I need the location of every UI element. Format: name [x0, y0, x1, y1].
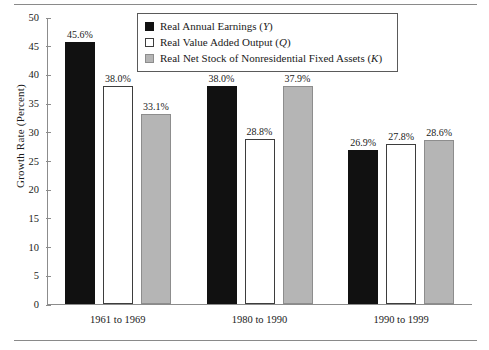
y-axis-tick: [46, 161, 51, 162]
legend-item: Real Net Stock of Nonresidential Fixed A…: [145, 50, 391, 66]
y-axis-tick-label: 50: [11, 13, 39, 24]
bar: [103, 86, 133, 304]
y-axis-tick-label: 35: [11, 99, 39, 110]
legend-label: Real Annual Earnings (Y): [160, 20, 273, 32]
bar: [141, 114, 171, 304]
y-axis-tick: [46, 190, 51, 191]
legend-swatch: [145, 54, 154, 63]
bar: [386, 144, 416, 304]
y-axis-tick: [46, 305, 51, 306]
y-axis-tick: [46, 247, 51, 248]
x-axis-category-label: 1980 to 1990: [200, 314, 320, 325]
figure-container: Growth Rate (Percent) 051015202530354045…: [0, 0, 489, 350]
bar: [424, 140, 454, 304]
legend-label: Real Value Added Output (Q): [160, 36, 291, 48]
y-axis-tick: [46, 132, 51, 133]
legend-item: Real Value Added Output (Q): [145, 34, 391, 50]
bar-value-label: 38.0%: [94, 74, 142, 84]
bar: [245, 139, 275, 304]
y-axis-tick-label: 10: [11, 243, 39, 254]
y-axis-tick-label: 20: [11, 185, 39, 196]
y-axis-tick-label: 15: [11, 214, 39, 225]
y-axis-tick: [46, 46, 51, 47]
y-axis-tick-label: 0: [11, 300, 39, 311]
y-axis-tick-label: 30: [11, 128, 39, 139]
legend-swatch: [145, 22, 154, 31]
bar-value-label: 33.1%: [132, 102, 180, 112]
legend-item: Real Annual Earnings (Y): [145, 18, 391, 34]
bottom-rule: [14, 340, 477, 341]
legend-swatch: [145, 38, 154, 47]
y-axis-tick: [46, 218, 51, 219]
y-axis-tick-label: 25: [11, 157, 39, 168]
bar-value-label: 37.9%: [274, 74, 322, 84]
y-axis-tick-label: 45: [11, 42, 39, 53]
legend: Real Annual Earnings (Y)Real Value Added…: [137, 13, 398, 72]
y-axis-tick: [46, 18, 51, 19]
bar: [207, 86, 237, 304]
bar-value-label: 28.8%: [236, 127, 284, 137]
bar: [65, 42, 95, 304]
y-axis-tick: [46, 104, 51, 105]
top-rule: [14, 4, 477, 5]
x-axis-category-label: 1990 to 1999: [341, 314, 461, 325]
x-axis-line: [47, 304, 472, 305]
y-axis-tick-label: 5: [11, 271, 39, 282]
bar: [283, 86, 313, 304]
x-axis-category-label: 1961 to 1969: [58, 314, 178, 325]
bar: [348, 150, 378, 304]
y-axis-tick: [46, 276, 51, 277]
legend-label: Real Net Stock of Nonresidential Fixed A…: [160, 52, 382, 64]
y-axis-tick: [46, 75, 51, 76]
bar-value-label: 28.6%: [415, 128, 463, 138]
y-axis-tick-label: 40: [11, 70, 39, 81]
bar-value-label: 38.0%: [198, 74, 246, 84]
bar-value-label: 45.6%: [56, 30, 104, 40]
